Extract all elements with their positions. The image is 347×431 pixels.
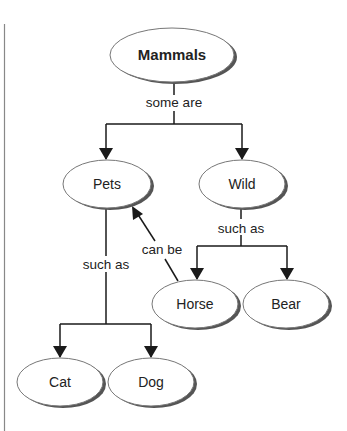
- arrowhead-icon: [280, 268, 294, 280]
- node-label-cat: Cat: [49, 374, 71, 390]
- edge-mammals-some-are: some are: [99, 83, 249, 160]
- arrowhead-icon: [144, 346, 158, 358]
- node-pets[interactable]: Pets: [63, 160, 154, 210]
- concept-map: some are such as such as can be Mammals: [0, 0, 347, 431]
- edge-label-such-as-pets: such as: [83, 257, 130, 272]
- edge-label-such-as-wild: such as: [218, 221, 265, 236]
- edge-horse-can-be-pets: can be: [132, 206, 182, 281]
- arrowhead-icon: [190, 268, 204, 280]
- node-bear[interactable]: Bear: [243, 280, 332, 330]
- edge-pets-such-as: such as: [53, 208, 158, 358]
- node-label-horse: Horse: [176, 296, 214, 312]
- node-dog[interactable]: Dog: [108, 358, 197, 408]
- node-wild[interactable]: Wild: [199, 160, 288, 210]
- arrowhead-icon: [132, 206, 143, 220]
- edge-label-some-are: some are: [146, 95, 202, 110]
- arrowhead-icon: [235, 148, 249, 160]
- node-label-bear: Bear: [271, 296, 301, 312]
- node-label-pets: Pets: [93, 176, 121, 192]
- arrowhead-icon: [53, 346, 67, 358]
- node-label-dog: Dog: [138, 374, 164, 390]
- node-mammals[interactable]: Mammals: [110, 28, 237, 84]
- edge-label-can-be: can be: [142, 242, 183, 257]
- node-cat[interactable]: Cat: [17, 358, 106, 408]
- node-horse[interactable]: Horse: [152, 280, 241, 330]
- node-label-wild: Wild: [228, 176, 255, 192]
- edge-wild-such-as: such as: [190, 208, 294, 280]
- arrowhead-icon: [99, 148, 113, 160]
- node-label-mammals: Mammals: [138, 46, 206, 63]
